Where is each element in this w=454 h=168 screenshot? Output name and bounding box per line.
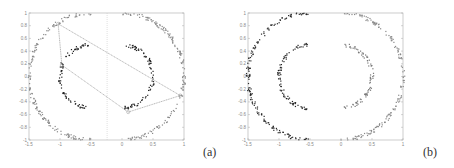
y-tick-label: 0.2 bbox=[21, 61, 28, 66]
y-tick-label: -0.4 bbox=[238, 99, 246, 104]
y-tick-label: -0.2 bbox=[238, 87, 246, 92]
x-tick-label: -1 bbox=[277, 142, 281, 147]
x-tick-label: -1.5 bbox=[244, 142, 252, 147]
panel-b-scatter-plot: -1.5-1-0.500.5110.80.60.40.20-0.2-0.4-0.… bbox=[238, 11, 405, 148]
x-tick-label: 0 bbox=[340, 142, 343, 147]
series-cluster-1-inner-left bbox=[277, 43, 308, 110]
x-tick-label: 1 bbox=[183, 142, 186, 147]
x-tick-label: 1 bbox=[402, 142, 405, 147]
y-tick-label: -0.6 bbox=[19, 112, 27, 117]
series-outer-right-half bbox=[122, 13, 186, 141]
y-tick-label: 0 bbox=[243, 74, 246, 79]
plot-frame bbox=[248, 13, 403, 140]
x-tick-label: 0 bbox=[121, 142, 124, 147]
y-tick-label: 0.6 bbox=[21, 36, 28, 41]
y-tick-label: 0 bbox=[24, 74, 27, 79]
x-tick-label: 0.5 bbox=[369, 142, 376, 147]
y-tick-label: 0.8 bbox=[21, 23, 28, 28]
boundary-polygon bbox=[57, 22, 182, 113]
y-tick-label: -0.2 bbox=[19, 87, 27, 92]
series-cluster-2-inner-right bbox=[344, 44, 375, 109]
y-tick-label: 1 bbox=[24, 11, 27, 16]
panel-a-label: (a) bbox=[203, 145, 216, 159]
series-inner-left-arc bbox=[58, 43, 88, 109]
x-tick-label: -1.5 bbox=[25, 142, 33, 147]
x-tick-label: -0.5 bbox=[87, 142, 95, 147]
series-cluster-1-outer-left bbox=[246, 13, 309, 141]
y-tick-label: -0.6 bbox=[238, 112, 246, 117]
panel-a-scatter-plot: -1.5-1-0.500.5110.80.60.40.20-0.2-0.4-0.… bbox=[19, 11, 186, 148]
y-tick-label: -1 bbox=[242, 138, 246, 143]
figure: -1.5-1-0.500.5110.80.60.40.20-0.2-0.4-0.… bbox=[0, 0, 454, 168]
y-tick-label: 1 bbox=[243, 11, 246, 16]
series-outer-left-half bbox=[28, 13, 92, 140]
y-tick-label: 0.4 bbox=[21, 49, 28, 54]
x-tick-label: 0.5 bbox=[150, 142, 157, 147]
y-tick-label: -0.8 bbox=[238, 125, 246, 130]
y-tick-label: -0.8 bbox=[19, 125, 27, 130]
y-tick-label: 0.2 bbox=[240, 61, 247, 66]
x-tick-label: -0.5 bbox=[306, 142, 314, 147]
y-tick-label: 0.6 bbox=[240, 36, 247, 41]
plot-frame bbox=[29, 13, 184, 140]
series-inner-right-arc bbox=[124, 44, 154, 109]
x-tick-label: -1 bbox=[58, 142, 62, 147]
y-tick-label: -1 bbox=[23, 138, 27, 143]
panel-b-label: (b) bbox=[423, 145, 437, 159]
y-tick-label: 0.4 bbox=[240, 49, 247, 54]
y-tick-label: 0.8 bbox=[240, 23, 247, 28]
y-tick-label: -0.4 bbox=[19, 99, 27, 104]
